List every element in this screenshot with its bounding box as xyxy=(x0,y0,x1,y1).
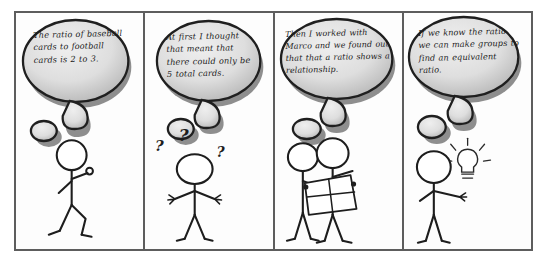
question-mark-icon: ? xyxy=(179,127,190,145)
comic-panel-1: The ratio of baseball cards to football … xyxy=(16,13,145,249)
comic-strip: The ratio of baseball cards to football … xyxy=(0,0,547,263)
stick-figure-walking xyxy=(16,127,143,245)
stick-figures-collaborating xyxy=(275,127,402,245)
question-mark-icon: ? xyxy=(217,144,226,160)
thought-text-2: At first I thought that meant that there… xyxy=(166,29,259,81)
lightbulb-icon xyxy=(445,138,491,178)
stick-figure-confused: ? ? ? xyxy=(145,127,272,245)
thought-text-4: If we know the ratio we can make groups … xyxy=(418,25,521,77)
stick-figure-idea xyxy=(404,127,531,245)
comic-frame: The ratio of baseball cards to football … xyxy=(14,11,533,251)
thought-text-3: Then I worked with Marco and we found ou… xyxy=(285,26,393,77)
comic-panel-3: Then I worked with Marco and we found ou… xyxy=(275,13,404,249)
comic-panel-2: At first I thought that meant that there… xyxy=(145,13,274,249)
comic-panel-4: If we know the ratio we can make groups … xyxy=(404,13,531,249)
question-mark-icon: ? xyxy=(155,137,164,155)
thought-text-1: The ratio of baseball cards to football … xyxy=(33,27,131,67)
